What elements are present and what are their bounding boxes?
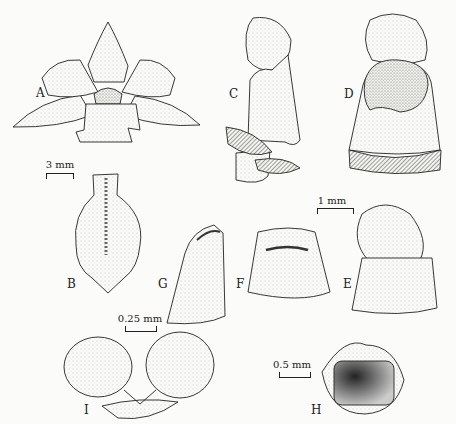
scale-bar-label-0-5mm: 0.5 mm bbox=[272, 360, 312, 370]
scale-bar-label-3mm: 3 mm bbox=[40, 160, 80, 170]
scale-bar-label-1mm: 1 mm bbox=[312, 196, 352, 206]
illustration-plate bbox=[0, 0, 456, 424]
panel-label-h: H bbox=[311, 404, 321, 416]
panel-label-e: E bbox=[343, 278, 352, 290]
scale-bar-0-25mm bbox=[125, 326, 157, 332]
panel-e-column-apex-anther bbox=[352, 205, 437, 314]
scale-bar-label-0-25mm: 0.25 mm bbox=[115, 314, 165, 324]
scale-bar-3mm bbox=[46, 173, 74, 179]
panel-label-a: A bbox=[36, 87, 45, 99]
panel-label-b: B bbox=[67, 278, 76, 290]
panel-d-column-front bbox=[349, 14, 441, 174]
panel-label-i: I bbox=[84, 404, 89, 416]
panel-label-d: D bbox=[344, 88, 354, 100]
panel-g-column-apex-side bbox=[167, 225, 225, 324]
panel-a-flower bbox=[13, 22, 200, 142]
panel-label-f: F bbox=[236, 278, 244, 290]
panel-b-lip bbox=[75, 174, 140, 293]
panel-label-g: G bbox=[158, 278, 168, 290]
scale-bar-1mm bbox=[317, 208, 354, 214]
scale-bar-0-5mm bbox=[279, 372, 311, 378]
panel-h-anther-cap bbox=[322, 343, 404, 414]
panel-label-c: C bbox=[229, 88, 238, 100]
panel-f-column-apex bbox=[248, 228, 330, 298]
